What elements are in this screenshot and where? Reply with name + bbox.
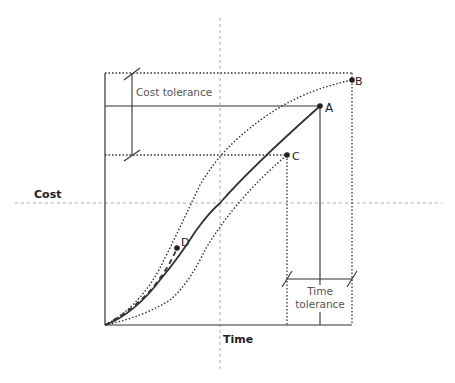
planned-curve — [105, 106, 320, 325]
point-a-marker — [317, 103, 323, 109]
actual-dashed-curve — [105, 248, 177, 325]
point-d-label: D — [181, 236, 189, 249]
point-c-marker — [284, 152, 290, 158]
tolerance-diagram: A B C D Cost tolerance Time tolerance Co… — [0, 0, 455, 383]
time-tolerance-label-line1: Time — [306, 285, 333, 297]
time-axis-label: Time — [223, 333, 253, 346]
cost-tolerance-label: Cost tolerance — [136, 86, 212, 98]
point-b-marker — [349, 77, 355, 83]
point-d-marker — [174, 245, 180, 251]
point-a-label: A — [325, 101, 334, 115]
diagram-svg: A B C D Cost tolerance Time tolerance Co… — [0, 0, 455, 383]
point-c-label: C — [292, 150, 300, 163]
point-b-label: B — [355, 75, 363, 88]
time-tolerance-label-line2: tolerance — [295, 298, 345, 310]
lower-tolerance-curve — [105, 155, 287, 325]
cost-axis-label: Cost — [34, 188, 61, 201]
